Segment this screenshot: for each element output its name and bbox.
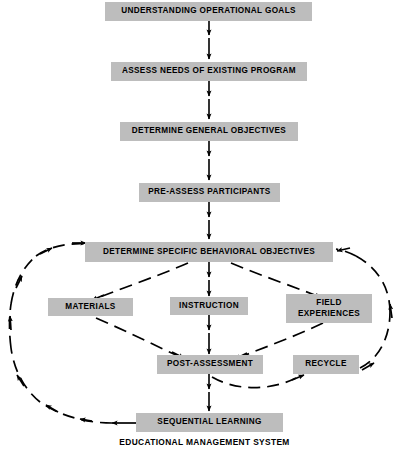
node-post-assessment[interactable]: POST-ASSESSMENT — [157, 355, 263, 374]
diagram-caption: EDUCATIONAL MANAGEMENT SYSTEM — [0, 437, 409, 447]
node-sequential-learning[interactable]: SEQUENTIAL LEARNING — [136, 413, 283, 432]
node-determine-specific-behavioral-objectives[interactable]: DETERMINE SPECIFIC BEHAVIORAL OBJECTIVES — [85, 242, 333, 262]
node-understanding-operational-goals[interactable]: UNDERSTANDING OPERATIONAL GOALS — [105, 2, 312, 21]
node-determine-general-objectives[interactable]: DETERMINE GENERAL OBJECTIVES — [120, 122, 298, 141]
node-assess-needs-of-existing-program[interactable]: ASSESS NEEDS OF EXISTING PROGRAM — [111, 62, 307, 81]
node-recycle[interactable]: RECYCLE — [293, 355, 359, 374]
node-pre-assess-participants[interactable]: PRE-ASSESS PARTICIPANTS — [139, 183, 280, 202]
node-field-experiences[interactable]: FIELD EXPERIENCES — [286, 294, 372, 323]
node-materials[interactable]: MATERIALS — [48, 298, 133, 316]
dashed-outer-loop — [10, 243, 137, 423]
node-instruction[interactable]: INSTRUCTION — [170, 297, 248, 315]
flowchart-diagram: UNDERSTANDING OPERATIONAL GOALS ASSESS N… — [0, 0, 409, 450]
